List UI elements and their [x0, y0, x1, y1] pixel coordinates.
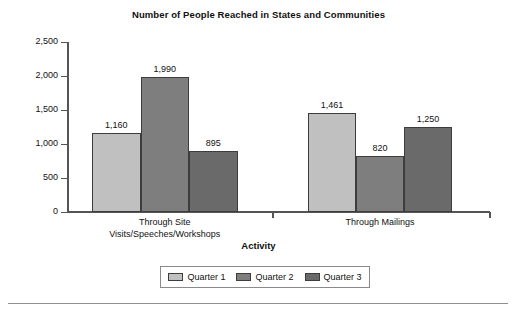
x-axis-tick — [489, 212, 491, 218]
legend-label: Quarter 2 — [255, 272, 293, 282]
bars-layer — [67, 42, 490, 212]
bar-quarter-2-group-2 — [356, 156, 404, 212]
category-label-line: Through Site — [109, 217, 220, 229]
bar-value-label: 1,250 — [417, 114, 440, 124]
x-axis-title: Activity — [0, 240, 517, 251]
legend-swatch — [236, 273, 251, 281]
legend-label: Quarter 3 — [324, 272, 362, 282]
legend-swatch — [168, 273, 183, 281]
bar-quarter-3-group-1 — [189, 151, 238, 212]
bottom-divider — [8, 303, 508, 304]
y-axis-tick-label: 1,500 — [10, 104, 58, 114]
bar-quarter-1-group-1 — [92, 133, 141, 212]
y-axis-tick-label: 0 — [10, 206, 58, 216]
legend-item-quarter-1: Quarter 1 — [168, 272, 225, 282]
category-label-line: Through Mailings — [345, 217, 414, 229]
y-axis-tick-label: 2,000 — [10, 70, 58, 80]
legend-swatch — [305, 273, 320, 281]
x-axis-category-label: Through Mailings — [345, 217, 414, 229]
bar-value-label: 820 — [372, 143, 387, 153]
x-axis-category-label: Through SiteVisits/Speeches/Workshops — [109, 217, 220, 240]
category-label-line: Visits/Speeches/Workshops — [109, 229, 220, 241]
y-axis-tick-label: 500 — [10, 172, 58, 182]
x-axis-tick — [272, 212, 274, 218]
bar-value-label: 1,461 — [321, 100, 344, 110]
bar-quarter-2-group-1 — [141, 77, 190, 212]
bar-quarter-1-group-2 — [308, 113, 356, 212]
legend-item-quarter-2: Quarter 2 — [236, 272, 293, 282]
legend-label: Quarter 1 — [187, 272, 225, 282]
chart-title: Number of People Reached in States and C… — [0, 9, 517, 20]
bar-quarter-3-group-2 — [404, 127, 452, 212]
chart-legend: Quarter 1Quarter 2Quarter 3 — [160, 266, 370, 288]
y-axis-tick-label: 2,500 — [10, 36, 58, 46]
bar-value-label: 895 — [206, 138, 221, 148]
y-axis-tick-label: 1,000 — [10, 138, 58, 148]
bar-value-label: 1,990 — [153, 64, 176, 74]
bar-value-label: 1,160 — [105, 120, 128, 130]
legend-item-quarter-3: Quarter 3 — [305, 272, 362, 282]
bar-chart-figure: Number of People Reached in States and C… — [0, 0, 517, 316]
